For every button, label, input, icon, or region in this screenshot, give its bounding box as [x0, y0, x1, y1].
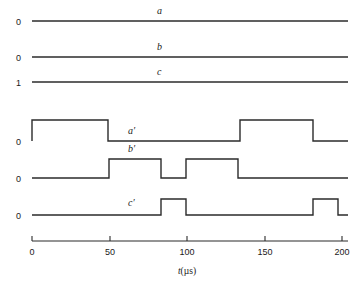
trace-a-prime-waveform: [32, 120, 348, 141]
trace-c: 1 c: [16, 66, 348, 88]
trace-c-prime: 0 c′: [16, 197, 348, 221]
timing-diagram-canvas: 0 a 0 b 1 c 0 a′ 0 b′: [0, 0, 360, 288]
trace-c-prime-level-label: 0: [16, 211, 21, 221]
trace-a-level-label: 0: [16, 17, 21, 27]
trace-a-prime-level-label: 0: [16, 137, 21, 147]
axis-title: t(µs): [178, 266, 196, 277]
axis-tick-label-50: 50: [105, 247, 115, 257]
trace-b: 0 b: [16, 41, 348, 63]
trace-b-prime-waveform: [32, 159, 348, 178]
axis-tick-label-200: 200: [334, 247, 349, 257]
trace-b-prime: 0 b′: [16, 143, 348, 184]
axis-tick-label-150: 150: [257, 247, 272, 257]
timing-diagram-figure: 0 a 0 b 1 c 0 a′ 0 b′: [0, 0, 360, 288]
trace-a-prime: 0 a′: [16, 120, 348, 147]
trace-a-prime-name-label: a′: [128, 125, 136, 136]
time-axis: 0 50 100 150 200 t(µs): [29, 236, 349, 277]
trace-a: 0 a: [16, 5, 348, 27]
axis-tick-label-100: 100: [179, 247, 194, 257]
trace-b-name-label: b: [157, 41, 162, 52]
axis-tick-label-0: 0: [29, 247, 34, 257]
trace-c-name-label: c: [157, 66, 162, 77]
trace-c-prime-name-label: c′: [128, 197, 135, 208]
trace-c-prime-waveform: [32, 199, 348, 215]
axis-title-unit: (µs): [181, 266, 197, 277]
trace-b-prime-level-label: 0: [16, 174, 21, 184]
trace-b-level-label: 0: [16, 53, 21, 63]
trace-b-prime-name-label: b′: [128, 143, 136, 154]
trace-a-name-label: a: [157, 5, 162, 16]
trace-c-level-label: 1: [16, 78, 21, 88]
